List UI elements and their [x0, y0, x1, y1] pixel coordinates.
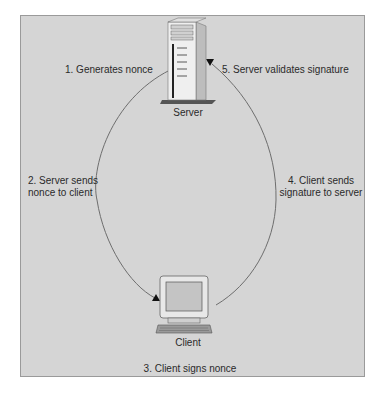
- step-5-label: 5. Server validates signature: [222, 64, 349, 76]
- client-label: Client: [158, 337, 218, 349]
- arrow-client-to-server: [212, 64, 276, 305]
- arrow-server-to-client: [96, 70, 170, 298]
- step-2-label: 2. Server sends nonce to client: [28, 175, 92, 199]
- step-2-line2: nonce to client: [28, 187, 92, 199]
- step-4-line1: 4. Client sends: [276, 175, 366, 187]
- step-1-label: 1. Generates nonce: [65, 64, 153, 76]
- server-label: Server: [158, 107, 218, 119]
- step-4-label: 4. Client sends signature to server: [276, 175, 366, 199]
- step-2-line1: 2. Server sends: [28, 175, 92, 187]
- step-3-label: 3. Client signs nonce: [120, 363, 260, 375]
- step-4-line2: signature to server: [276, 187, 366, 199]
- desktop-computer-icon: [156, 276, 212, 333]
